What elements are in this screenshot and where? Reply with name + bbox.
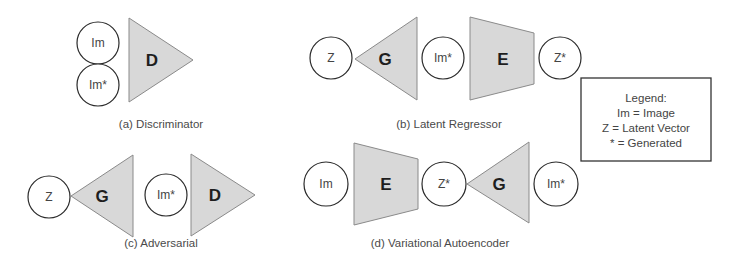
node-latent-label: Z	[45, 190, 52, 204]
node-image-label: Im	[91, 36, 104, 50]
node-generated-image-label: Im*	[434, 51, 452, 65]
node-generated-latent-label: Z*	[554, 51, 566, 65]
node-latent-label: Z	[327, 51, 334, 65]
legend-title: Legend:	[625, 92, 667, 104]
legend-line-generated: * = Generated	[610, 137, 682, 149]
encoder-block-label: E	[497, 50, 508, 69]
generator-block-label: G	[378, 50, 391, 69]
panel-c-adversarial: Z G Im* D (c) Adversarial	[28, 154, 255, 249]
node-generated-latent-label: Z*	[438, 177, 450, 191]
caption-a: (a) Discriminator	[119, 118, 204, 130]
node-generated-image-label: Im*	[547, 177, 565, 191]
encoder-block-label: E	[380, 175, 391, 194]
caption-c: (c) Adversarial	[124, 237, 198, 249]
caption-b: (b) Latent Regressor	[396, 118, 502, 130]
generator-block-label: G	[95, 187, 108, 206]
panel-b-latent-regressor: Z G Im* E Z* (b) Latent Regressor	[310, 17, 581, 130]
legend-line-latent: Z = Latent Vector	[602, 122, 690, 134]
node-image-label: Im	[319, 177, 332, 191]
node-generated-image-label: Im*	[157, 188, 175, 202]
discriminator-block	[191, 154, 255, 236]
panel-d-variational-autoencoder: Im E Z* G Im* (d) Variational Autoencode…	[304, 142, 578, 249]
gan-architecture-diagram: Im Im* D (a) Discriminator Z G Im* E Z* …	[0, 0, 736, 270]
legend: Legend: Im = Image Z = Latent Vector * =…	[581, 78, 711, 161]
legend-line-image: Im = Image	[617, 107, 675, 119]
discriminator-block-label: D	[209, 186, 221, 205]
discriminator-block-label: D	[146, 51, 158, 70]
generator-block-label: G	[492, 175, 505, 194]
node-generated-image-label: Im*	[89, 78, 107, 92]
panel-a-discriminator: Im Im* D (a) Discriminator	[77, 18, 203, 130]
discriminator-block	[129, 18, 193, 102]
caption-d: (d) Variational Autoencoder	[371, 237, 510, 249]
